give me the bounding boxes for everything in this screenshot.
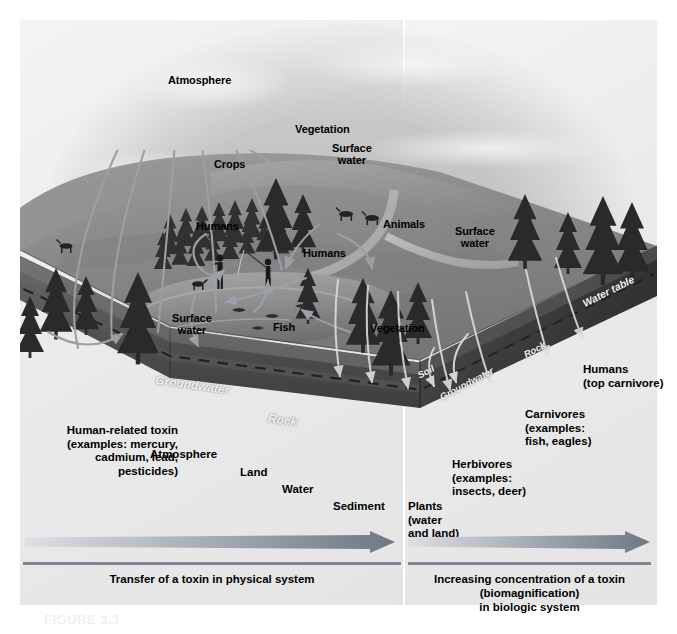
label-humans-crops: Humans xyxy=(196,220,239,232)
label-surface-water-lake: Surface water xyxy=(172,312,212,336)
label-vegetation-top: Vegetation xyxy=(295,123,350,135)
physical-system-caption: Transfer of a toxin in physical system xyxy=(23,572,401,586)
figure-container: Atmosphere Vegetation Crops Humans Surfa… xyxy=(0,0,677,634)
physical-system-arrow xyxy=(25,531,395,553)
biologic-system-rule xyxy=(408,562,651,565)
callout-atmosphere: Atmosphere xyxy=(150,448,217,462)
label-animals: Animals xyxy=(383,218,425,230)
biologic-system-arrow xyxy=(408,531,650,553)
landscape-block xyxy=(20,150,657,440)
label-atmosphere: Atmosphere xyxy=(168,74,231,86)
label-crops: Crops xyxy=(214,158,245,170)
label-surface-water-mid: Surface water xyxy=(332,142,372,166)
callout-water: Water xyxy=(282,483,314,497)
label-humans-fishing: Humans xyxy=(303,247,346,259)
label-surface-water-right: Surface water xyxy=(455,225,495,249)
callout-humans-top-carnivore: Humans (top carnivore) xyxy=(583,363,664,390)
callout-land: Land xyxy=(240,466,267,480)
physical-system-rule xyxy=(23,562,401,565)
label-vegetation-lake: Vegetation xyxy=(370,322,425,334)
label-fish: Fish xyxy=(273,321,295,333)
callout-sediment: Sediment xyxy=(333,500,385,514)
figure-number: FIGURE 3.3 xyxy=(44,612,120,627)
callout-herbivores: Herbivores (examples: insects, deer) xyxy=(452,458,526,499)
callout-carnivores: Carnivores (examples: fish, eagles) xyxy=(525,408,591,449)
biologic-system-caption: Increasing concentration of a toxin (bio… xyxy=(408,572,651,614)
